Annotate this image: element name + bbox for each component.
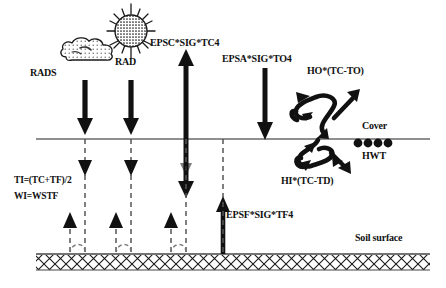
cover-dots bbox=[354, 139, 393, 148]
label-epsf-sig-tf4: EPSF*SIG*TF4 bbox=[226, 210, 293, 221]
dashed-arrowheads-down bbox=[78, 160, 192, 176]
soil-hatch-band bbox=[36, 254, 430, 270]
label-rads: RADS bbox=[30, 68, 56, 79]
energy-balance-diagram: RADS RAD EPSC*SIG*TC4 EPSA*SIG*TO4 HO*(T… bbox=[0, 0, 446, 288]
dashed-arrowheads-up bbox=[63, 212, 178, 228]
label-rad: RAD bbox=[115, 57, 136, 68]
rad-downward-arrow bbox=[123, 80, 139, 135]
diagram-canvas bbox=[0, 0, 446, 288]
label-epsa-sig-to4: EPSA*SIG*TO4 bbox=[222, 54, 292, 65]
label-epsc-sig-tc4: EPSC*SIG*TC4 bbox=[150, 38, 219, 49]
label-soil-surface: Soil surface bbox=[355, 233, 402, 244]
dashed-downward-arrows bbox=[85, 139, 223, 252]
label-hi-tc-td: HI*(TC-TD) bbox=[281, 176, 333, 187]
cloud-icon bbox=[61, 38, 112, 61]
sun-icon bbox=[107, 4, 155, 58]
label-ti-equation: TI=(TC+TF)/2 bbox=[14, 176, 72, 186]
epsa-downward-arrow bbox=[257, 68, 273, 140]
dashed-soil-curves bbox=[70, 245, 186, 253]
rads-downward-arrow bbox=[77, 80, 93, 135]
ho-upright-arrow bbox=[334, 89, 360, 118]
label-ho-tc-to: HO*(TC-TO) bbox=[307, 66, 364, 77]
label-wi-equation: WI=WSTF bbox=[14, 192, 58, 202]
label-cover: Cover bbox=[362, 121, 387, 132]
label-hwt: HWT bbox=[362, 151, 386, 162]
